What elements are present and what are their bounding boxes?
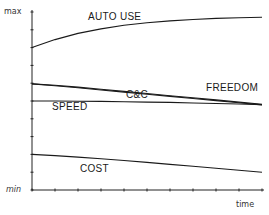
series-label-cost: COST bbox=[80, 163, 109, 174]
series-line-cost bbox=[32, 154, 262, 172]
x-axis-label: time bbox=[236, 200, 254, 209]
y-axis-max-label: max bbox=[4, 7, 21, 16]
series-label-auto-use: AUTO USE bbox=[88, 11, 141, 22]
series-label-speed: SPEED bbox=[52, 101, 87, 112]
series-label-freedom: FREEDOM bbox=[206, 82, 258, 93]
y-axis-min-label: min bbox=[6, 185, 21, 194]
line-chart bbox=[0, 0, 269, 215]
series-line-auto-use bbox=[32, 17, 262, 47]
series-label-cc: C&C bbox=[126, 89, 148, 100]
